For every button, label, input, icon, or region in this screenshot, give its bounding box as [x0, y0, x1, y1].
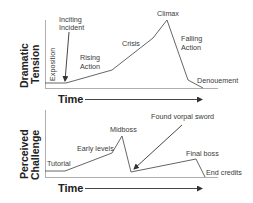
- label-end-credits: End credits: [206, 168, 242, 177]
- inciting-incident-arrow: [65, 32, 69, 81]
- label-rising-1: Rising: [80, 53, 100, 62]
- label-climax: Climax: [157, 9, 179, 18]
- perceived-challenge-chart: Perceived Challenge Tutorial Early level…: [18, 110, 242, 194]
- label-exposition: Exposition: [48, 48, 57, 81]
- label-vorpal-sword: Found vorpal sword: [151, 112, 214, 121]
- label-midboss: Midboss: [110, 125, 137, 134]
- label-falling-2: Action: [181, 43, 201, 52]
- dramatic-tension-chart: Dramatic Tension Exposition Inciting Inc…: [18, 9, 238, 105]
- y-axis-label-challenge: Challenge: [29, 130, 41, 180]
- label-crisis: Crisis: [122, 39, 140, 48]
- label-inciting-2: Incident: [59, 23, 84, 32]
- label-falling-1: Falling: [181, 34, 202, 43]
- vorpal-sword-arrow: [134, 125, 182, 169]
- story-vs-game-diagram: Dramatic Tension Exposition Inciting Inc…: [0, 0, 253, 203]
- label-early-levels: Early levels: [77, 144, 114, 153]
- label-denouement: Denouement: [197, 76, 238, 85]
- label-final-boss: Final boss: [186, 149, 219, 158]
- challenge-curve: [45, 136, 205, 177]
- label-tutorial: Tutorial: [47, 159, 71, 168]
- y-axis-label-tension: Tension: [29, 45, 41, 84]
- x-axis-label-time: Time: [58, 93, 83, 105]
- x-axis-label-time: Time: [58, 182, 83, 194]
- label-rising-2: Action: [80, 62, 100, 71]
